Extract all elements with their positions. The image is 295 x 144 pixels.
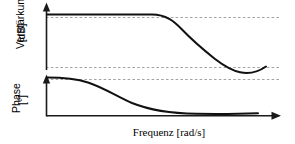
- phase-y-axis-arrow-icon: [43, 75, 50, 84]
- frequency-x-axis-label: Frequenz [rad/s]: [133, 126, 205, 138]
- magnitude-y-axis-arrow-icon: [43, 3, 50, 12]
- phase-curve: [47, 78, 258, 114]
- bode-plot-figure: Verstärkung [dB] Phase [°] Frequenz [rad…: [0, 0, 295, 144]
- frequency-x-axis-arrow-icon: [272, 112, 282, 120]
- frequency-x-axis-label-wrap: Frequenz [rad/s]: [118, 122, 220, 140]
- magnitude-plot-group: [43, 3, 281, 74]
- magnitude-y-axis-label-unit: [dB]: [15, 24, 27, 43]
- magnitude-y-axis-label-unit-wrap: [dB]: [13, 13, 29, 53]
- phase-plot-group: [43, 75, 281, 120]
- magnitude-curve: [47, 15, 266, 74]
- phase-y-axis-label-unit: [°]: [16, 95, 28, 105]
- phase-y-axis-label-unit-wrap: [°]: [14, 85, 30, 115]
